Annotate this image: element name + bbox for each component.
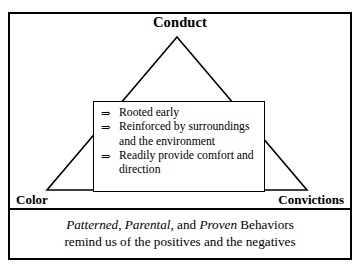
caption-word-proven: Proven — [199, 217, 237, 232]
caption-line-2: remind us of the positives and the negat… — [64, 234, 295, 251]
double-arrow-icon: ⇒ — [101, 106, 119, 120]
pyramid-base-right-label: Convictions — [278, 193, 344, 207]
pyramid-base-left-label: Color — [16, 193, 48, 207]
pyramid-callout-box: ⇒ Rooted early ⇒ Reinforced by surroundi… — [93, 101, 265, 192]
conduct-pyramid-figure: Conduct Color Convictions ⇒ Rooted early… — [0, 0, 363, 272]
pyramid-apex-label: Conduct — [10, 15, 350, 31]
pyramid-region: Conduct Color Convictions ⇒ Rooted early… — [10, 14, 350, 208]
double-arrow-icon: ⇒ — [101, 149, 119, 163]
bullet-text: Reinforced by surroundings and the envir… — [119, 120, 259, 149]
double-arrow-icon: ⇒ — [101, 120, 119, 134]
caption-word-parental: Parental — [125, 217, 171, 232]
caption-word-patterned: Patterned — [66, 217, 118, 232]
list-item: ⇒ Rooted early — [101, 106, 259, 120]
bullet-text: Readily provide comfort and direction — [119, 149, 259, 178]
figure-caption: Patterned, Parental, and Proven Behavior… — [10, 210, 350, 258]
list-item: ⇒ Reinforced by surroundings and the env… — [101, 120, 259, 149]
callout-bullet-list: ⇒ Rooted early ⇒ Reinforced by surroundi… — [101, 106, 259, 177]
caption-sep-1: , — [118, 217, 125, 232]
caption-tail: Behaviors — [237, 217, 294, 232]
bullet-text: Rooted early — [119, 106, 259, 120]
caption-sep-2: , and — [170, 217, 199, 232]
list-item: ⇒ Readily provide comfort and direction — [101, 149, 259, 178]
caption-line-1: Patterned, Parental, and Proven Behavior… — [66, 217, 294, 234]
figure-outer-frame: Conduct Color Convictions ⇒ Rooted early… — [8, 12, 352, 260]
